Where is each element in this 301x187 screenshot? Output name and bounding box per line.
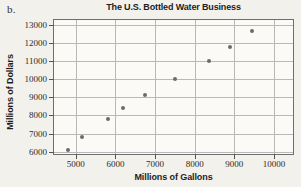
gridline-vertical <box>195 20 196 154</box>
y-axis-tick <box>49 43 54 44</box>
y-axis-tick <box>49 25 54 26</box>
gridline-horizontal <box>54 43 293 44</box>
scatter-point <box>80 135 84 139</box>
x-axis-tick-label: 9000 <box>225 159 243 169</box>
gridline-horizontal <box>54 61 293 62</box>
x-axis-tick-label: 6000 <box>106 159 124 169</box>
y-axis-title: Millions of Dollars <box>5 44 15 140</box>
y-axis-tick <box>49 61 54 62</box>
scatter-point <box>121 106 125 110</box>
y-axis-tick-label: 9000 <box>29 92 47 102</box>
scatter-point <box>207 59 211 63</box>
gridline-vertical <box>115 20 116 154</box>
y-axis-tick <box>49 115 54 116</box>
gridline-horizontal <box>54 134 293 135</box>
y-axis-tick <box>49 134 54 135</box>
y-axis-tick <box>49 152 54 153</box>
y-axis-tick-label: 8000 <box>29 110 47 120</box>
scatter-point <box>173 77 177 81</box>
figure-container: b. The U.S. Bottled Water Business 60007… <box>0 0 301 187</box>
x-axis-tick-label: 10000 <box>263 159 286 169</box>
x-axis-tick-label: 5000 <box>67 159 85 169</box>
y-axis-tick-label: 12000 <box>25 38 48 48</box>
y-axis-tick-label: 11000 <box>25 56 47 66</box>
gridline-vertical <box>274 20 275 154</box>
gridline-vertical <box>155 20 156 154</box>
part-label: b. <box>7 3 16 15</box>
scatter-point <box>66 148 70 152</box>
x-axis-tick-label: 7000 <box>146 159 164 169</box>
y-axis-tick <box>49 97 54 98</box>
gridline-horizontal <box>54 25 293 26</box>
scatter-point <box>228 45 232 49</box>
scatter-point <box>143 93 147 97</box>
gridline-vertical <box>76 20 77 154</box>
x-axis-title: Millions of Gallons <box>53 172 294 182</box>
y-axis-tick-label: 13000 <box>25 20 48 30</box>
scatter-point <box>106 117 110 121</box>
y-axis-tick-label: 6000 <box>29 147 47 157</box>
scatter-point <box>250 29 254 33</box>
y-axis-tick <box>49 79 54 80</box>
y-axis-tick-label: 7000 <box>29 129 47 139</box>
plot-area: 6000700080009000100001100012000130005000… <box>53 19 294 155</box>
gridline-horizontal <box>54 152 293 153</box>
x-axis-tick-label: 8000 <box>186 159 204 169</box>
chart-title: The U.S. Bottled Water Business <box>53 2 294 12</box>
gridline-horizontal <box>54 115 293 116</box>
gridline-horizontal <box>54 97 293 98</box>
gridline-vertical <box>234 20 235 154</box>
y-axis-tick-label: 10000 <box>25 74 48 84</box>
